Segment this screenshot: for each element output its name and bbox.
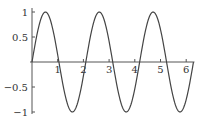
x-tick-label: 4 — [132, 64, 138, 75]
y-tick-label: −1 — [13, 107, 28, 118]
x-tick-label: 3 — [106, 64, 112, 75]
x-tick-label: 5 — [157, 64, 163, 75]
x-tick-label: 6 — [183, 64, 189, 75]
sine-plot: 10.5−0.5−1 123456 — [0, 0, 205, 125]
y-tick-label: −0.5 — [4, 82, 28, 93]
y-tick-label: 1 — [22, 7, 28, 18]
y-tick-label: 0.5 — [12, 32, 28, 43]
